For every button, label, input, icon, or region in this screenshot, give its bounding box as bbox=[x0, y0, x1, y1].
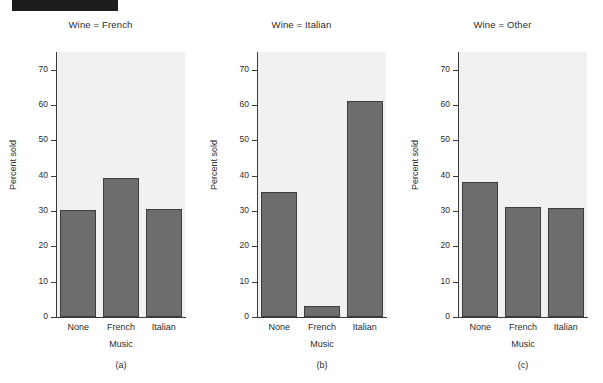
bar bbox=[103, 178, 139, 317]
y-axis-tick bbox=[252, 105, 257, 106]
y-axis-tick bbox=[51, 105, 56, 106]
y-axis-tick bbox=[453, 317, 458, 318]
x-axis-tick-label: None bbox=[456, 322, 504, 332]
y-axis-tick-label: 40 bbox=[22, 171, 48, 180]
bar bbox=[146, 209, 182, 317]
panel-caption: (b) bbox=[258, 360, 386, 370]
y-axis-tick-label: 30 bbox=[22, 206, 48, 215]
y-axis-tick-label: 20 bbox=[424, 241, 450, 250]
y-axis-tick bbox=[51, 211, 56, 212]
x-axis-tick-label: Italian bbox=[542, 322, 590, 332]
y-axis-tick bbox=[51, 140, 56, 141]
y-axis-line bbox=[56, 52, 57, 318]
x-axis-tick-label: French bbox=[499, 322, 547, 332]
y-axis-tick-label: 60 bbox=[424, 100, 450, 109]
panel-caption: (c) bbox=[459, 360, 587, 370]
y-axis-tick bbox=[51, 176, 56, 177]
y-axis-tick-label: 0 bbox=[22, 312, 48, 321]
y-axis-tick bbox=[453, 140, 458, 141]
y-axis-tick bbox=[453, 282, 458, 283]
chart-panel-c: Wine = Other010203040506070Percent soldN… bbox=[402, 0, 603, 383]
x-axis-title: Music bbox=[57, 339, 185, 349]
y-axis-title: Percent sold bbox=[410, 130, 420, 200]
x-axis-line bbox=[458, 317, 588, 318]
bar bbox=[505, 207, 541, 317]
y-axis-tick-label: 30 bbox=[424, 206, 450, 215]
y-axis-tick-label: 60 bbox=[22, 100, 48, 109]
panel-title: Wine = Other bbox=[402, 19, 603, 30]
y-axis-tick-label: 40 bbox=[424, 171, 450, 180]
bar bbox=[462, 182, 498, 317]
y-axis-line bbox=[458, 52, 459, 318]
x-axis-tick-label: None bbox=[54, 322, 102, 332]
y-axis-title: Percent sold bbox=[209, 130, 219, 200]
panel-title: Wine = Italian bbox=[201, 19, 402, 30]
bar bbox=[347, 101, 383, 317]
y-axis-tick bbox=[51, 246, 56, 247]
y-axis-title: Percent sold bbox=[8, 130, 18, 200]
y-axis-tick bbox=[453, 70, 458, 71]
y-axis-tick-label: 70 bbox=[424, 65, 450, 74]
chart-panel-b: Wine = Italian010203040506070Percent sol… bbox=[201, 0, 402, 383]
y-axis-tick-label: 40 bbox=[223, 171, 249, 180]
bar bbox=[261, 192, 297, 317]
x-axis-tick-label: French bbox=[97, 322, 145, 332]
y-axis-tick-label: 0 bbox=[223, 312, 249, 321]
x-axis-tick-label: Italian bbox=[341, 322, 389, 332]
y-axis-tick-label: 10 bbox=[223, 277, 249, 286]
x-axis-title: Music bbox=[258, 339, 386, 349]
y-axis-tick-label: 0 bbox=[424, 312, 450, 321]
chart-panels: Wine = French010203040506070Percent sold… bbox=[0, 0, 603, 383]
y-axis-tick-label: 50 bbox=[22, 135, 48, 144]
x-axis-title: Music bbox=[459, 339, 587, 349]
y-axis-tick bbox=[51, 317, 56, 318]
x-axis-tick-label: French bbox=[298, 322, 346, 332]
y-axis-tick bbox=[453, 176, 458, 177]
y-axis-tick-label: 30 bbox=[223, 206, 249, 215]
x-axis-tick-label: Italian bbox=[140, 322, 188, 332]
x-axis-tick-label: None bbox=[255, 322, 303, 332]
y-axis-tick bbox=[252, 282, 257, 283]
y-axis-tick-label: 10 bbox=[424, 277, 450, 286]
y-axis-tick bbox=[453, 211, 458, 212]
bar bbox=[304, 306, 340, 317]
y-axis-line bbox=[257, 52, 258, 318]
y-axis-tick bbox=[51, 70, 56, 71]
y-axis-tick-label: 50 bbox=[424, 135, 450, 144]
panel-title: Wine = French bbox=[0, 19, 201, 30]
y-axis-tick bbox=[252, 317, 257, 318]
y-axis-tick bbox=[51, 282, 56, 283]
y-axis-tick-label: 60 bbox=[223, 100, 249, 109]
x-axis-line bbox=[257, 317, 387, 318]
bar bbox=[60, 210, 96, 317]
y-axis-tick bbox=[453, 105, 458, 106]
chart-panel-a: Wine = French010203040506070Percent sold… bbox=[0, 0, 201, 383]
bar bbox=[548, 208, 584, 317]
y-axis-tick bbox=[252, 176, 257, 177]
y-axis-tick-label: 20 bbox=[223, 241, 249, 250]
y-axis-tick-label: 10 bbox=[22, 277, 48, 286]
y-axis-tick bbox=[252, 70, 257, 71]
panel-caption: (a) bbox=[57, 360, 185, 370]
y-axis-tick bbox=[453, 246, 458, 247]
y-axis-tick-label: 70 bbox=[22, 65, 48, 74]
x-axis-line bbox=[56, 317, 186, 318]
y-axis-tick bbox=[252, 140, 257, 141]
y-axis-tick-label: 50 bbox=[223, 135, 249, 144]
y-axis-tick bbox=[252, 211, 257, 212]
y-axis-tick bbox=[252, 246, 257, 247]
y-axis-tick-label: 20 bbox=[22, 241, 48, 250]
y-axis-tick-label: 70 bbox=[223, 65, 249, 74]
